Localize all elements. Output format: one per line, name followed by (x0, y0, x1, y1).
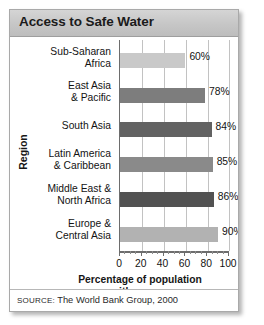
category-label-east-asia-pacific: East Asia & Pacific (26, 80, 111, 104)
x-tick-minor-5 (124, 251, 125, 254)
category-label-latin-america-caribbean: Latin America & Caribbean (26, 148, 111, 172)
x-tick-minor-85 (212, 251, 213, 254)
category-label-europe-central-asia: Europe & Central Asia (26, 218, 111, 242)
chart-title-bar: Access to Safe Water (10, 10, 238, 37)
x-tick-major-80 (206, 251, 207, 256)
x-tick-major-20 (141, 251, 142, 256)
bar-east-asia-pacific (120, 88, 205, 103)
x-tick-minor-30 (152, 251, 153, 254)
gridline-80 (208, 40, 209, 251)
x-tick-minor-25 (146, 251, 147, 254)
chart-title: Access to Safe Water (19, 14, 154, 29)
bar-value-east-asia-pacific: 78% (209, 86, 230, 97)
x-tick-label-100: 100 (213, 258, 239, 269)
x-tick-minor-10 (130, 251, 131, 254)
bar-europe-central-asia (120, 227, 218, 242)
bar-middle-east-north-africa (120, 192, 214, 207)
x-tick-minor-55 (179, 251, 180, 254)
gridline-40 (164, 40, 165, 251)
x-tick-major-100 (228, 251, 229, 256)
category-label-sub-saharan-africa: Sub-Saharan Africa (26, 46, 111, 70)
figure-card: Access to Safe Water Region Sub-Saharan … (9, 9, 239, 312)
source-label: SOURCE: (17, 296, 55, 305)
x-tick-minor-65 (190, 251, 191, 254)
x-tick-minor-35 (157, 251, 158, 254)
bar-value-latin-america-caribbean: 85% (217, 156, 238, 167)
gridline-60 (186, 40, 187, 251)
x-tick-minor-50 (174, 251, 175, 254)
gridline-20 (142, 40, 143, 251)
bar-value-south-asia: 84% (216, 121, 237, 132)
x-tick-minor-75 (201, 251, 202, 254)
bar-value-sub-saharan-africa: 60% (189, 51, 210, 62)
category-label-south-asia: South Asia (26, 120, 111, 132)
source-note: SOURCE: The World Bank Group, 2000 (17, 295, 178, 305)
x-tick-major-60 (184, 251, 185, 256)
x-tick-minor-70 (195, 251, 196, 254)
x-tick-major-40 (163, 251, 164, 256)
x-tick-minor-90 (217, 251, 218, 254)
bar-south-asia (120, 122, 212, 137)
category-label-middle-east-north-africa: Middle East & North Africa (26, 183, 111, 207)
x-tick-major-0 (119, 251, 120, 256)
source-value: The World Bank Group, 2000 (55, 295, 178, 305)
bar-sub-saharan-africa (120, 53, 185, 68)
bars-plot-area: 60% 78% 84% 85% 86% 90% (119, 40, 229, 251)
bar-latin-america-caribbean (120, 157, 213, 172)
x-tick-minor-95 (223, 251, 224, 254)
x-tick-minor-15 (135, 251, 136, 254)
bar-value-europe-central-asia: 90% (222, 226, 239, 237)
chart-plot-region: Region Sub-Saharan Africa East Asia & Pa… (10, 38, 238, 312)
bar-value-middle-east-north-africa: 86% (218, 191, 239, 202)
x-tick-minor-45 (168, 251, 169, 254)
y-axis-category-labels: Sub-Saharan Africa East Asia & Pacific S… (30, 40, 115, 250)
gridline-100 (229, 40, 230, 251)
source-footer: SOURCE: The World Bank Group, 2000 (10, 289, 238, 311)
